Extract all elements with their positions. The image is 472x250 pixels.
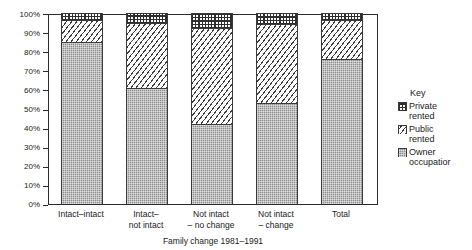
bar-segment-private-rented <box>191 13 233 28</box>
bar-segment-owner-occupation <box>61 42 103 204</box>
legend-item-private-rented: Private rented <box>398 101 472 121</box>
x-axis-title: Family change 1981–1991 <box>48 236 378 246</box>
y-tick-label: 60% <box>14 87 40 95</box>
y-tick-label: 50% <box>14 106 40 114</box>
legend-label: Public rented <box>409 124 435 144</box>
legend-title: Key <box>410 88 472 98</box>
bar-segment-private-rented <box>126 13 168 23</box>
bar-segment-owner-occupation <box>191 124 233 204</box>
bar-segment-public-rented <box>126 23 168 88</box>
y-tick-label: 0% <box>14 201 40 209</box>
private-rented-swatch-icon <box>398 102 407 111</box>
bar-segment-private-rented <box>256 13 298 24</box>
owner-occupation-swatch-icon <box>398 148 407 157</box>
bar-not-intact-no-change <box>191 13 233 204</box>
y-tick-label: 20% <box>14 163 40 171</box>
legend-item-owner-occupation: Owner occupatior <box>398 147 472 167</box>
bar-segment-public-rented <box>256 24 298 102</box>
bar-segment-private-rented <box>321 13 363 20</box>
legend-item-public-rented: Public rented <box>398 124 472 144</box>
legend-label: Owner occupatior <box>409 147 451 167</box>
y-tick-mark <box>43 205 48 206</box>
bar-segment-public-rented <box>321 20 363 59</box>
plot-area <box>48 14 378 205</box>
y-tick-label: 10% <box>14 182 40 190</box>
stacked-bar-chart: 100% 90% 80% 70% 60% 50% 40% 30% 20% 10%… <box>0 0 472 250</box>
bar-total <box>321 13 363 204</box>
bar-segment-owner-occupation <box>321 59 363 204</box>
y-tick-label: 30% <box>14 144 40 152</box>
x-tick-label-total: Total <box>298 209 384 220</box>
bar-segment-owner-occupation <box>126 88 168 205</box>
bar-intact-not-intact <box>126 13 168 204</box>
bar-intact-intact <box>61 13 103 204</box>
bar-segment-private-rented <box>61 13 103 20</box>
y-tick-label: 100% <box>14 11 40 19</box>
bar-not-intact-change <box>256 13 298 204</box>
bar-segment-public-rented <box>61 20 103 42</box>
bar-segment-public-rented <box>191 28 233 124</box>
y-tick-label: 90% <box>14 30 40 38</box>
bar-segment-owner-occupation <box>256 103 298 204</box>
y-tick-label: 80% <box>14 49 40 57</box>
legend-label: Private rented <box>409 101 437 121</box>
legend: Key Private rented Public rented Owner o… <box>398 88 472 170</box>
y-tick-label: 70% <box>14 68 40 76</box>
public-rented-swatch-icon <box>398 125 407 134</box>
y-tick-label: 40% <box>14 125 40 133</box>
